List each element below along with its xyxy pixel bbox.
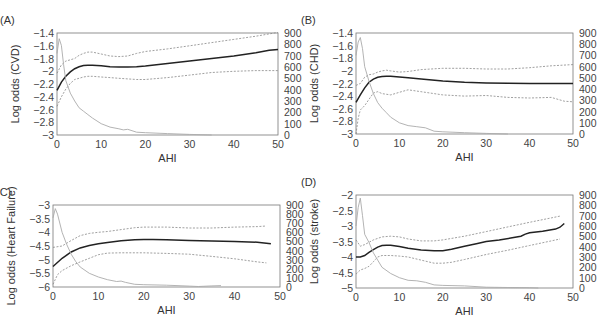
y-axis-label: Log odds (CHD) xyxy=(308,44,320,123)
confidence-band-line xyxy=(57,71,278,107)
y2-tick-label: 900 xyxy=(579,27,597,39)
y2-tick-label: 900 xyxy=(579,189,597,201)
x-tick-label: 50 xyxy=(567,291,579,303)
x-tick-label: 20 xyxy=(138,290,150,302)
y2-tick-label: 100 xyxy=(284,118,302,130)
y2-tick-label: 500 xyxy=(284,72,302,84)
histogram-line xyxy=(356,198,538,288)
y-tick-label: −5.5 xyxy=(29,267,50,279)
y2-tick-label: 500 xyxy=(579,72,597,84)
y2-tick-label: 700 xyxy=(579,49,597,61)
plot-frame xyxy=(356,195,573,288)
y-tick-label: −2.6 xyxy=(332,103,353,115)
y2-tick-label: 800 xyxy=(579,199,597,211)
y2-tick-label: 400 xyxy=(579,241,597,253)
y-tick-label: −5 xyxy=(341,282,353,294)
y2-tick-label: 500 xyxy=(579,230,597,242)
y-tick-label: −1.4 xyxy=(332,27,353,39)
y2-axis-ticks: 0100200300400500600700800900 xyxy=(286,199,304,293)
y2-tick-label: 0 xyxy=(579,128,585,140)
y-axis-ticks: −3−2.8−2.6−2.4−2.2−2−1.8−1.6−1.4 xyxy=(332,27,353,140)
y-tick-label: −4.5 xyxy=(29,240,50,252)
y-tick-label: −1.6 xyxy=(33,40,54,52)
y-tick-label: −4 xyxy=(38,226,50,238)
x-tick-label: 50 xyxy=(567,137,579,149)
confidence-band-line xyxy=(356,90,573,134)
y-tick-label: −2 xyxy=(341,189,353,201)
y-tick-label: −2.8 xyxy=(33,116,54,128)
confidence-band-line xyxy=(356,216,560,246)
y-tick-label: −6 xyxy=(38,281,50,293)
y-tick-label: −2.8 xyxy=(332,115,353,127)
x-tick-label: 30 xyxy=(480,137,492,149)
y-tick-label: −1.6 xyxy=(332,40,353,52)
y-tick-label: −4 xyxy=(341,251,353,263)
x-axis-label: AHI xyxy=(157,304,175,316)
y2-tick-label: 600 xyxy=(284,61,302,73)
x-tick-label: 0 xyxy=(54,138,60,150)
y-tick-label: −4.5 xyxy=(332,267,353,279)
y2-tick-label: 400 xyxy=(284,84,302,96)
x-tick-label: 30 xyxy=(183,290,195,302)
x-axis-label: AHI xyxy=(455,151,473,163)
x-tick-label: 10 xyxy=(93,290,105,302)
y-axis-label: Log odds (stroke) xyxy=(308,199,320,285)
chart-panel-b: (B)−3−2.8−2.6−2.4−2.2−2−1.8−1.6−1.401002… xyxy=(301,14,597,163)
panel-label: (A) xyxy=(0,14,15,26)
y2-tick-label: 200 xyxy=(579,106,597,118)
y-axis-label: Log odds (Heart Failure) xyxy=(5,186,17,305)
y-tick-label: −3.5 xyxy=(332,236,353,248)
x-tick-label: 40 xyxy=(228,138,240,150)
y2-tick-label: 300 xyxy=(579,94,597,106)
x-tick-label: 0 xyxy=(353,291,359,303)
y-axis-ticks: −5−4.5−4−3.5−3−2.5−2 xyxy=(332,189,353,294)
y-tick-label: −5 xyxy=(38,254,50,266)
x-tick-label: 20 xyxy=(437,137,449,149)
x-tick-label: 0 xyxy=(353,137,359,149)
y2-tick-label: 200 xyxy=(284,106,302,118)
x-axis-ticks: 01020304050 xyxy=(50,290,286,302)
histogram-line xyxy=(356,38,508,135)
x-axis-ticks: 01020304050 xyxy=(353,291,579,303)
x-tick-label: 10 xyxy=(394,137,406,149)
y-tick-label: −3 xyxy=(341,128,353,140)
panel-label: (D) xyxy=(301,176,316,188)
y2-tick-label: 100 xyxy=(579,117,597,129)
y-axis-ticks: −3−2.8−2.6−2.4−2.2−2−1.8−1.6−1.4 xyxy=(33,27,54,141)
x-axis-ticks: 01020304050 xyxy=(353,137,579,149)
y-tick-label: −2 xyxy=(341,65,353,77)
x-axis-label: AHI xyxy=(158,152,176,164)
y-tick-label: −2.5 xyxy=(332,205,353,217)
y2-tick-label: 800 xyxy=(284,38,302,50)
y2-tick-label: 800 xyxy=(579,38,597,50)
x-tick-label: 40 xyxy=(524,137,536,149)
x-tick-label: 10 xyxy=(394,291,406,303)
y2-tick-label: 900 xyxy=(286,199,304,211)
y-tick-label: −2.4 xyxy=(332,90,353,102)
y-tick-label: −3 xyxy=(38,199,50,211)
confidence-band-line xyxy=(53,253,266,284)
y2-tick-label: 600 xyxy=(579,61,597,73)
confidence-band-line xyxy=(57,32,278,73)
y2-tick-label: 700 xyxy=(579,210,597,222)
estimate-line xyxy=(57,50,278,91)
y2-tick-label: 300 xyxy=(579,251,597,263)
x-tick-label: 50 xyxy=(274,290,286,302)
chart-panel-a: (A)−3−2.8−2.6−2.4−2.2−2−1.8−1.6−1.401002… xyxy=(0,14,302,164)
y-tick-label: −1.8 xyxy=(332,52,353,64)
y-tick-label: −2.2 xyxy=(332,78,353,90)
confidence-band-line xyxy=(53,226,266,247)
y-tick-label: −1.8 xyxy=(33,53,54,65)
confidence-band-line xyxy=(356,239,560,274)
y2-axis-ticks: 0100200300400500600700800900 xyxy=(284,27,302,141)
y2-tick-label: 200 xyxy=(579,261,597,273)
y2-tick-label: 700 xyxy=(284,50,302,62)
y2-tick-label: 100 xyxy=(579,272,597,284)
x-axis-ticks: 01020304050 xyxy=(54,138,284,150)
x-tick-label: 40 xyxy=(524,291,536,303)
y-tick-label: −2.2 xyxy=(33,78,54,90)
y-tick-label: −1.4 xyxy=(33,27,54,39)
x-tick-label: 50 xyxy=(272,138,284,150)
y2-tick-label: 400 xyxy=(579,83,597,95)
x-tick-label: 20 xyxy=(437,291,449,303)
